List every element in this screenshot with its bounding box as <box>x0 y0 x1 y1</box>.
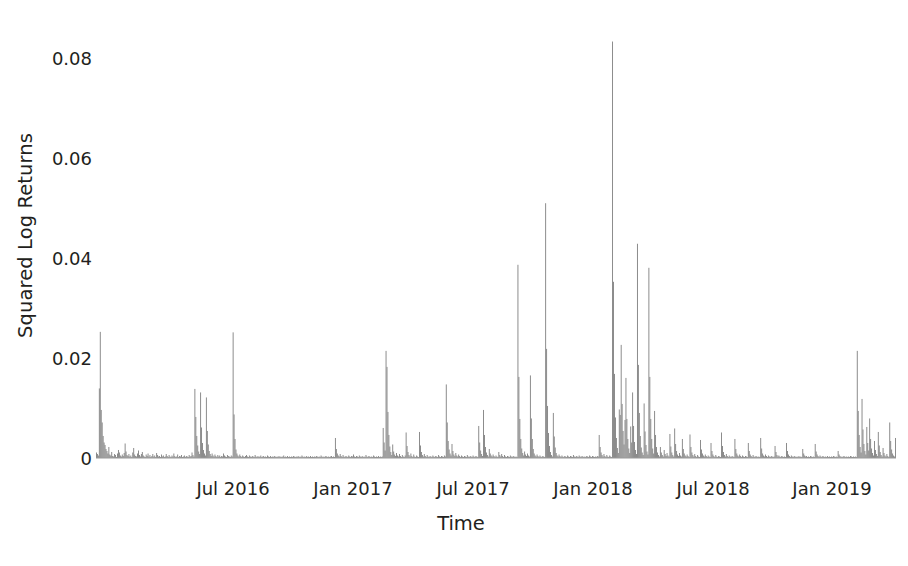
bar <box>138 450 139 458</box>
bar <box>195 417 196 458</box>
bar <box>479 442 480 458</box>
bar <box>424 454 425 458</box>
bar <box>114 454 115 458</box>
bar <box>615 417 616 458</box>
bar <box>336 449 337 458</box>
bar <box>654 411 655 458</box>
bar <box>223 453 224 458</box>
bar <box>700 440 701 458</box>
bar <box>447 422 448 458</box>
bar <box>545 203 546 458</box>
bar <box>111 452 112 458</box>
bar <box>406 432 407 458</box>
bar <box>889 422 890 458</box>
bar <box>868 450 869 458</box>
bar <box>521 448 522 458</box>
bar <box>723 452 724 458</box>
bar <box>97 454 98 458</box>
bar <box>734 439 735 458</box>
bar <box>108 447 109 458</box>
bar <box>701 449 702 458</box>
bar <box>408 452 409 458</box>
bar <box>874 441 875 458</box>
bar <box>786 443 787 458</box>
x-tick-label-1: Jan 2017 <box>313 478 392 499</box>
bar <box>631 442 632 458</box>
y-tick-label-3: 0.06 <box>20 147 92 168</box>
bar <box>555 447 556 458</box>
bar <box>534 453 535 458</box>
bar <box>683 449 684 458</box>
bar <box>670 446 671 458</box>
bar <box>712 451 713 458</box>
bar <box>749 451 750 458</box>
bar <box>642 452 643 458</box>
bar <box>99 388 100 458</box>
bar <box>635 450 636 458</box>
bar <box>137 453 138 458</box>
bar <box>197 445 198 458</box>
bar <box>620 415 621 458</box>
bar <box>483 410 484 458</box>
bar <box>166 454 167 458</box>
bar <box>637 244 638 458</box>
bar <box>859 435 860 458</box>
bar <box>886 454 887 458</box>
bar <box>669 434 670 458</box>
bar <box>141 454 142 458</box>
bar <box>760 438 761 458</box>
bar <box>864 451 865 458</box>
bar <box>665 454 666 458</box>
bar <box>453 451 454 458</box>
bar <box>858 411 859 458</box>
bar <box>419 432 420 458</box>
bar <box>616 438 617 458</box>
bar <box>207 431 208 458</box>
bar <box>650 419 651 458</box>
bar <box>446 384 447 458</box>
x-tick-label-3: Jan 2018 <box>553 478 632 499</box>
bar <box>546 349 547 458</box>
bar <box>450 453 451 458</box>
bar <box>884 453 885 458</box>
bar <box>876 454 877 458</box>
bar <box>880 452 881 458</box>
bar <box>103 436 104 458</box>
bar <box>862 399 863 458</box>
bar <box>860 447 861 458</box>
bar <box>653 453 654 458</box>
bar <box>726 454 727 458</box>
y-tick-label-4: 0.08 <box>20 47 92 68</box>
bar <box>132 452 133 458</box>
bar <box>385 450 386 458</box>
bar <box>518 377 519 458</box>
bar <box>691 447 692 458</box>
bar <box>871 448 872 458</box>
bar <box>857 351 858 458</box>
bar <box>106 449 107 458</box>
bar <box>548 433 549 458</box>
bar <box>803 453 804 458</box>
bar <box>527 453 528 458</box>
bar <box>748 443 749 458</box>
bar <box>655 435 656 458</box>
bar <box>627 439 628 458</box>
bar <box>890 441 891 458</box>
bar <box>212 453 213 458</box>
bar <box>532 439 533 458</box>
bar <box>614 374 615 458</box>
x-tick-label-5: Jan 2019 <box>792 478 871 499</box>
bar <box>675 444 676 458</box>
x-tick-label-2: Jul 2017 <box>436 478 509 499</box>
bar <box>646 445 647 458</box>
bar <box>547 406 548 458</box>
bar <box>498 452 499 458</box>
bar <box>384 442 385 458</box>
bar <box>684 453 685 458</box>
bar <box>641 447 642 458</box>
bar <box>96 452 97 458</box>
bar <box>691 452 692 458</box>
bar <box>601 452 602 458</box>
bar <box>878 432 879 458</box>
bar <box>721 432 722 458</box>
